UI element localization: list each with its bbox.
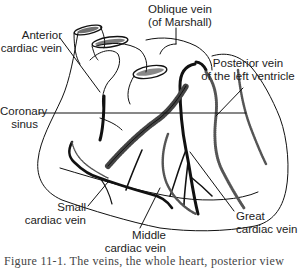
label-line: Oblique vein <box>138 3 222 16</box>
label-line: sinus <box>0 118 38 131</box>
label-line: Posterior vein <box>200 57 296 70</box>
figure-caption: Figure 11-1. The veins, the whole heart,… <box>4 254 284 269</box>
coronary-sinus-vessel <box>108 86 186 166</box>
label-small-cardiac-vein: Small cardiac vein <box>20 201 86 227</box>
label-line: cardiac vein <box>20 214 86 227</box>
label-line: Great <box>236 210 296 223</box>
label-great-cardiac-vein: Great cardiac vein <box>236 210 296 236</box>
label-coronary-sinus: Coronary sinus <box>0 105 38 131</box>
label-line: of the left ventricle <box>200 70 296 83</box>
label-oblique-vein: Oblique vein (of Marshall) <box>138 3 222 29</box>
label-anterior-cardiac-vein: Anterior cardiac vein <box>0 29 62 55</box>
label-line: Anterior <box>0 29 62 42</box>
label-line: Coronary <box>0 105 38 118</box>
label-line: cardiac vein <box>0 42 62 55</box>
label-line: Middle <box>100 229 166 242</box>
label-middle-cardiac-vein: Middle cardiac vein <box>100 229 166 255</box>
label-line: cardiac vein <box>236 223 296 236</box>
label-posterior-vein-left-ventricle: Posterior vein of the left ventricle <box>200 57 296 83</box>
label-line: Small <box>20 201 86 214</box>
label-line: (of Marshall) <box>138 16 222 29</box>
